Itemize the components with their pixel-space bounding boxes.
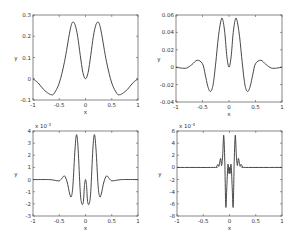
plot-frame xyxy=(176,15,282,102)
y-tick-label: 0.1 xyxy=(22,55,31,61)
y-tick-label: -0.04 xyxy=(160,99,175,105)
figure: -1-0.500.51-0.100.10.20.3xy-1-0.500.51-0… xyxy=(0,0,301,239)
x-axis-label: x xyxy=(228,225,232,231)
x-tick-label: 1 xyxy=(136,218,140,224)
plot-frame xyxy=(33,15,138,100)
x-tick-label: 1 xyxy=(280,218,284,224)
x-tick-label: 1 xyxy=(280,104,284,110)
x-tick-label: 0 xyxy=(84,102,88,108)
y-tick-label: 4 xyxy=(172,140,176,146)
x-tick-label: -1 xyxy=(30,102,35,108)
x-tick-label: 0.5 xyxy=(251,104,260,110)
y-tick-label: -4 xyxy=(170,189,176,195)
subplot-top-right: -1-0.500.51-0.04-0.0200.020.040.06xy xyxy=(157,12,283,117)
data-line xyxy=(33,22,138,95)
y-tick-label: -1 xyxy=(26,189,31,195)
data-line xyxy=(176,18,282,92)
y-tick-label: 0 xyxy=(28,177,32,183)
y-axis-label: y xyxy=(14,55,18,62)
y-tick-label: 2 xyxy=(28,152,32,158)
x-tick-label: 0.5 xyxy=(251,218,260,224)
y-tick-label: 0 xyxy=(28,76,32,82)
x-tick-label: 0 xyxy=(228,218,232,224)
y-axis-label: y xyxy=(14,171,18,178)
x-tick-label: -0.5 xyxy=(54,218,65,224)
y-tick-label: 2 xyxy=(172,152,176,158)
y-tick-label: 6 xyxy=(172,128,176,134)
y-axis-label: y xyxy=(158,171,162,178)
subplot-top-left: -1-0.500.51-0.100.10.20.3xy xyxy=(14,12,139,115)
x-tick-label: -1 xyxy=(173,104,178,110)
y-tick-label: -2 xyxy=(26,201,31,207)
y-tick-label: -3 xyxy=(26,213,32,219)
exponent-label: x 10-3 xyxy=(35,122,51,130)
y-tick-label: -8 xyxy=(170,213,176,219)
y-tick-label: -6 xyxy=(170,201,176,207)
plot-frame xyxy=(177,131,282,216)
x-tick-label: 0.5 xyxy=(107,218,116,224)
x-tick-label: 0.5 xyxy=(107,102,116,108)
x-tick-label: -0.5 xyxy=(197,104,208,110)
x-tick-label: -0.5 xyxy=(54,102,65,108)
y-tick-label: 0.02 xyxy=(162,47,174,53)
x-tick-label: -1 xyxy=(174,218,179,224)
y-tick-label: 0 xyxy=(172,164,176,170)
subplot-bottom-left: -1-0.500.51-3-2-101234xyx 10-3 xyxy=(14,122,139,232)
y-tick-label: 4 xyxy=(28,128,32,134)
data-line xyxy=(177,135,282,207)
x-tick-label: -0.5 xyxy=(198,218,209,224)
y-tick-label: -2 xyxy=(170,177,175,183)
y-tick-label: 0.2 xyxy=(22,33,31,39)
x-tick-label: 0 xyxy=(227,104,231,110)
x-tick-label: 0 xyxy=(84,218,88,224)
y-tick-label: 0.04 xyxy=(162,29,175,35)
x-axis-label: x xyxy=(84,109,88,115)
data-line xyxy=(33,135,138,205)
y-tick-label: -0.02 xyxy=(160,82,174,88)
x-axis-label: x xyxy=(84,225,88,231)
y-axis-label: y xyxy=(157,56,161,63)
y-tick-label: 1 xyxy=(28,164,32,170)
exponent-label: x 10-4 xyxy=(179,122,195,130)
plot-frame xyxy=(33,131,138,216)
x-tick-label: -1 xyxy=(30,218,35,224)
subplot-bottom-right: -1-0.500.51-8-6-4-20246xyx 10-4 xyxy=(158,122,283,232)
y-tick-label: 0.06 xyxy=(162,12,175,18)
y-tick-label: -0.1 xyxy=(20,97,31,103)
x-axis-label: x xyxy=(227,111,231,117)
y-tick-label: 3 xyxy=(28,140,32,146)
y-tick-label: 0 xyxy=(171,64,175,70)
x-tick-label: 1 xyxy=(136,102,140,108)
y-tick-label: 0.3 xyxy=(22,12,31,18)
